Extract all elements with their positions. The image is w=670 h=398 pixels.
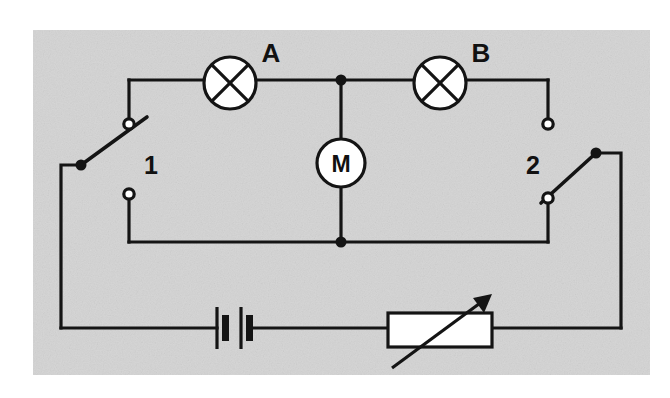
rheostat-body bbox=[388, 313, 492, 347]
switch-2-label: 2 bbox=[526, 151, 540, 179]
junction-bottom-motor bbox=[336, 237, 347, 248]
lamp-a-label: A bbox=[262, 38, 281, 68]
lamp-b bbox=[414, 57, 466, 109]
motor-label: M bbox=[331, 151, 350, 177]
junction-top-motor bbox=[336, 75, 347, 86]
circuit-diagram-figure: M 1 2 bbox=[0, 0, 670, 398]
switch-2-lower-terminal[interactable] bbox=[543, 193, 553, 203]
switch-2-upper-terminal[interactable] bbox=[543, 119, 553, 129]
switch-1-pivot-contact[interactable] bbox=[76, 160, 87, 171]
switch-1-lower-terminal[interactable] bbox=[124, 189, 134, 199]
switch-1-label: 1 bbox=[144, 151, 158, 179]
lamp-a bbox=[204, 57, 256, 109]
motor: M bbox=[317, 139, 365, 187]
switch-2-pivot-contact[interactable] bbox=[591, 148, 602, 159]
circuit-schematic-canvas: M 1 2 bbox=[0, 0, 670, 398]
lamp-b-label: B bbox=[472, 38, 491, 68]
switch-1-upper-terminal[interactable] bbox=[124, 119, 134, 129]
